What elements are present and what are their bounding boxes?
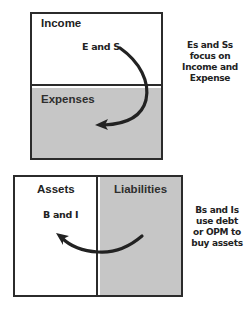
arrows-layer [0, 0, 251, 316]
income-to-expenses-arrow-icon [95, 48, 147, 130]
liabilities-to-assets-arrow-icon [56, 233, 142, 252]
